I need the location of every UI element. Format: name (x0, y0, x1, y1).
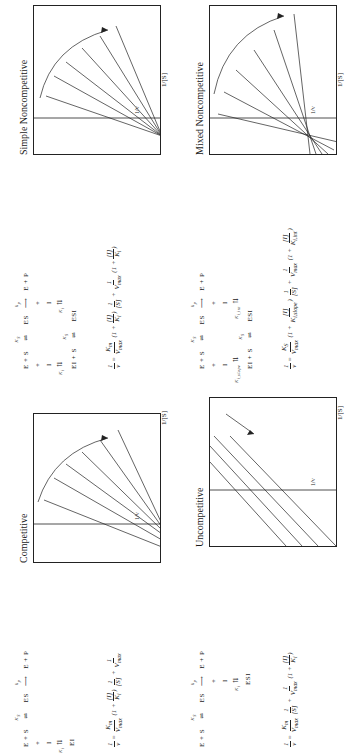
y-axis-label: 1/v (310, 478, 316, 486)
esi-complex: ESI (244, 673, 252, 685)
plus-sign: + (210, 301, 218, 305)
forward-arrow-icon: kp⟶ (22, 293, 30, 313)
panel-uncompetitive: E + S KS⇌ ES kp⟶ E + P + I Ki ⇅ ESI 1v =… (176, 378, 351, 755)
plus-sign: + (34, 363, 42, 367)
equilibrium-arrow-icon: KS⇌ (22, 327, 30, 349)
equilibrium-arrow-icon: KS⇌ (198, 705, 206, 727)
es-complex: ES (198, 315, 206, 324)
equilibrium-arrow-icon: KS⇌ (22, 705, 30, 727)
rate-equation: 1v = KmVmax (1 + [I]Ki) 1[S] + 1Vmax (105, 652, 124, 747)
lineweaver-burk-plot: 1/v (209, 397, 337, 547)
products: E + P (22, 273, 30, 291)
panel-title: Uncompetitive (194, 488, 205, 547)
reactants: E + S (22, 729, 30, 747)
panel-title: Mixed Noncompetitive (194, 62, 205, 155)
inhibitor: I (221, 679, 229, 682)
inhibitor: I (45, 741, 53, 744)
plus-sign: + (34, 741, 42, 745)
panel-simple-noncompetitive: E + S KS⇌ ES kp⟶ E + P + + I I Ki ⇅ Ki ⇅… (0, 0, 175, 377)
reactants: E + S (198, 351, 206, 369)
reaction-scheme: E + S KS⇌ ES kp⟶ E + P + + I I Ki,slope … (184, 209, 274, 369)
panel-mixed-noncompetitive: E + S KS⇌ ES kp⟶ E + P + + I I Ki,slope … (176, 0, 351, 377)
plus-sign: + (210, 363, 218, 367)
reaction-scheme: E + S KS⇌ ES kp⟶ E + P + + I I Ki ⇅ Ki ⇅… (8, 209, 98, 369)
esi-complex: ESI (70, 310, 78, 322)
inhibitor: I (45, 363, 53, 366)
plus-sign: + (210, 679, 218, 683)
x-axis-label: 1/[S] (336, 406, 344, 420)
es-complex: ES (22, 315, 30, 324)
x-axis-label: 1/[S] (160, 73, 168, 87)
forward-arrow-icon: kp⟶ (198, 671, 206, 691)
ki-int-equilibrium: Ki,int ⇅ (232, 297, 241, 319)
es-complex: ES (22, 693, 30, 702)
inhibitor: I (221, 301, 229, 304)
ki-equilibrium-left: Ki ⇅ (56, 361, 65, 375)
products: E + P (22, 651, 30, 669)
x-axis-label: 1/[S] (160, 411, 168, 425)
ki-slope-equilibrium: Ki,slope ⇅ (232, 356, 241, 383)
reaction-scheme: E + S KS⇌ ES kp⟶ E + P + I Ki ⇅ EI (8, 587, 98, 747)
ki-equilibrium: Ki ⇅ (232, 677, 241, 691)
es-complex: ES (198, 693, 206, 702)
equilibrium-arrow-icon: KS⇌ (198, 327, 206, 349)
plus-sign: + (34, 301, 42, 305)
rate-equation: 1v = KSVmax (1 + [I]Ki,slope) 1[S] + 1Vm… (281, 228, 300, 369)
inhibitor: I (221, 363, 229, 366)
reactants: E + S (22, 351, 30, 369)
rate-equation: 1v = KmVmax 1[S] + 1Vmax (1 + [I]Ki) (281, 652, 300, 747)
panel-title: Competitive (18, 514, 29, 563)
y-axis-label: 1/v (134, 106, 140, 114)
equilibrium-arrow-icon: KS⇌ (246, 324, 254, 346)
equilibrium-arrow-icon: KS⇌ (70, 324, 78, 346)
x-axis-label: 1/[S] (336, 73, 344, 87)
ei-complex: EI + S (246, 348, 254, 369)
rate-equation: 1v = KmVmax (1 + [I]Ki) 1[S] + 1Vmax (1 … (105, 246, 124, 369)
lineweaver-burk-plot: 1/v (33, 5, 161, 155)
reaction-scheme: E + S KS⇌ ES kp⟶ E + P + I Ki ⇅ ESI (184, 587, 274, 747)
lineweaver-burk-plot: 1/v (33, 413, 161, 563)
ki-equilibrium: Ki ⇅ (56, 739, 65, 753)
inhibitor: I (45, 301, 53, 304)
ei-complex: EI + S (70, 348, 78, 369)
ei-complex: EI (68, 738, 76, 746)
lineweaver-burk-plot: 1/v (209, 5, 337, 155)
reactants: E + S (198, 729, 206, 747)
y-axis-label: 1/v (134, 512, 140, 520)
forward-arrow-icon: kp⟶ (198, 293, 206, 313)
panel-title: Simple Noncompetitive (18, 60, 29, 155)
inhibition-kinetics-page: E + S KS⇌ ES kp⟶ E + P + I Ki ⇅ EI 1v = … (0, 0, 351, 755)
products: E + P (198, 273, 206, 291)
forward-arrow-icon: kp⟶ (22, 671, 30, 691)
ki-equilibrium-right: Ki ⇅ (56, 299, 65, 313)
y-axis-label: 1/v (310, 106, 316, 114)
esi-complex: ESI (246, 310, 254, 322)
panel-competitive: E + S KS⇌ ES kp⟶ E + P + I Ki ⇅ EI 1v = … (0, 378, 175, 755)
products: E + P (198, 651, 206, 669)
